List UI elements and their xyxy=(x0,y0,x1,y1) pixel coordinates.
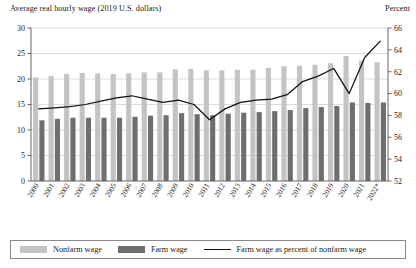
bar-nonfarm xyxy=(157,72,162,181)
x-axis-tick-label: 2004 xyxy=(87,181,102,199)
bar-farm xyxy=(132,117,137,181)
x-axis-tick-label: 2006 xyxy=(118,181,133,199)
bar-farm xyxy=(55,119,60,181)
right-axis-tick-label: 58 xyxy=(394,111,402,120)
bar-farm xyxy=(101,118,106,181)
bar-farm xyxy=(164,115,169,181)
nonfarm-swatch-icon xyxy=(20,246,47,253)
bar-farm xyxy=(70,118,75,181)
legend-item-nonfarm: Nonfarm wage xyxy=(20,245,118,254)
bar-farm xyxy=(86,118,91,181)
x-axis-tick-label: 2000 xyxy=(25,181,40,199)
bar-farm xyxy=(272,111,277,181)
bar-farm xyxy=(381,102,386,181)
wage-comparison-chart: Average real hourly wage (2019 U.S. doll… xyxy=(0,0,416,268)
legend-label-nonfarm: Nonfarm wage xyxy=(53,245,102,254)
bar-farm xyxy=(334,106,339,181)
x-axis-tick-label: 2012 xyxy=(212,181,227,199)
bar-nonfarm xyxy=(235,70,240,181)
x-axis-tick-label: 2007 xyxy=(134,181,149,199)
bar-nonfarm xyxy=(49,76,54,181)
bar-nonfarm xyxy=(312,65,317,181)
bar-nonfarm xyxy=(80,73,85,181)
bar-nonfarm xyxy=(204,70,209,181)
bar-farm xyxy=(148,116,153,181)
chart-legend: Nonfarm wage Farm wage Farm wage as perc… xyxy=(10,240,406,259)
bar-nonfarm xyxy=(328,63,333,181)
right-axis-tick-label: 64 xyxy=(394,46,402,55)
left-axis-tick-label: 30 xyxy=(17,24,25,33)
x-axis-tick-label: 2021 xyxy=(351,181,366,199)
legend-item-farm: Farm wage xyxy=(118,245,204,254)
x-axis-tick-label: 2020 xyxy=(336,181,351,199)
left-axis-tick-label: 25 xyxy=(17,49,25,58)
x-axis-tick-label: 2015 xyxy=(258,181,273,199)
bar-farm xyxy=(195,114,200,181)
x-axis-tick-label: 2013 xyxy=(227,181,242,199)
bar-farm xyxy=(226,114,231,181)
bar-nonfarm xyxy=(250,70,255,181)
bar-farm xyxy=(288,110,293,181)
x-axis-tick-label: 2005 xyxy=(103,181,118,199)
bar-nonfarm xyxy=(375,62,380,181)
x-axis-tick-label: 2017 xyxy=(289,181,304,199)
bar-nonfarm xyxy=(281,66,286,181)
right-axis-title: Percent xyxy=(385,4,410,13)
bar-farm xyxy=(319,107,324,181)
bar-nonfarm xyxy=(126,73,131,181)
x-axis-tick-label: 2008 xyxy=(149,181,164,199)
right-axis-tick-label: 60 xyxy=(394,89,402,98)
right-axis-tick-label: 54 xyxy=(394,155,402,164)
bar-farm xyxy=(179,113,184,181)
line-swatch-icon xyxy=(204,246,231,253)
bar-farm xyxy=(241,113,246,181)
bar-nonfarm xyxy=(188,69,193,181)
right-axis-tick-label: 66 xyxy=(394,24,402,33)
left-axis-tick-label: 5 xyxy=(21,151,25,160)
bar-farm xyxy=(39,120,44,181)
legend-label-farm: Farm wage xyxy=(151,245,188,254)
bar-nonfarm xyxy=(219,70,224,181)
x-axis-tick-label: 2011 xyxy=(196,181,211,198)
left-axis-tick-label: 10 xyxy=(17,126,25,135)
x-axis-tick-label: 2002 xyxy=(56,181,71,199)
bar-farm xyxy=(257,112,262,181)
farm-swatch-icon xyxy=(118,246,145,253)
x-axis-tick-label: 2010 xyxy=(181,181,196,199)
x-axis-tick-label: 2009 xyxy=(165,181,180,199)
right-axis-tick-label: 62 xyxy=(394,68,402,77)
chart-svg: 0510152025305254565860626466200020012002… xyxy=(0,18,416,208)
bar-nonfarm xyxy=(343,56,348,181)
x-axis-tick-label: 2001 xyxy=(41,181,56,199)
bar-farm xyxy=(303,108,308,181)
x-axis-tick-label: 2022* xyxy=(365,181,382,202)
bar-nonfarm xyxy=(173,69,178,181)
bar-nonfarm xyxy=(142,72,147,181)
x-axis-tick-label: 2014 xyxy=(243,181,258,199)
x-axis-tick-label: 2018 xyxy=(305,181,320,199)
bar-farm xyxy=(365,103,370,181)
x-axis-tick-label: 2019 xyxy=(320,181,335,199)
left-axis-title: Average real hourly wage (2019 U.S. doll… xyxy=(10,4,161,13)
bar-nonfarm xyxy=(359,61,364,181)
bar-farm xyxy=(210,115,215,181)
plot-area: 0510152025305254565860626466200020012002… xyxy=(0,18,416,208)
left-axis-tick-label: 20 xyxy=(17,75,25,84)
legend-item-percent-line: Farm wage as percent of nonfarm wage xyxy=(204,245,383,254)
bar-nonfarm xyxy=(33,77,38,181)
bar-nonfarm xyxy=(64,74,69,181)
right-axis-tick-label: 56 xyxy=(394,133,402,142)
right-axis-tick-label: 52 xyxy=(394,177,402,186)
x-axis-tick-label: 2003 xyxy=(72,181,87,199)
legend-label-percent-line: Farm wage as percent of nonfarm wage xyxy=(237,245,367,254)
left-axis-tick-label: 0 xyxy=(21,177,25,186)
bar-nonfarm xyxy=(266,68,271,181)
bar-nonfarm xyxy=(111,74,116,181)
bar-farm xyxy=(117,118,122,181)
bar-nonfarm xyxy=(95,73,100,181)
left-axis-tick-label: 15 xyxy=(17,100,25,109)
bar-farm xyxy=(350,102,355,181)
x-axis-tick-label: 2016 xyxy=(274,181,289,199)
